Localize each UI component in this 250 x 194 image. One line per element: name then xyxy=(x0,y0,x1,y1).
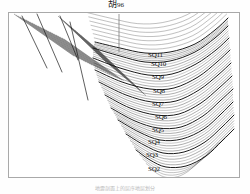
sequence-boundary-sq7 xyxy=(99,63,231,103)
well-name-number: 96 xyxy=(117,1,124,9)
sequence-label-sq6: SQ6 xyxy=(155,114,167,121)
well-name-label: 胡96 xyxy=(108,0,124,9)
figure-caption: 地震剖面上的层序地层划分 xyxy=(0,184,250,191)
well-name-character: 胡 xyxy=(108,0,117,9)
sequence-label-sq5: SQ5 xyxy=(152,127,164,134)
fault-1-line xyxy=(22,16,47,68)
sequence-label-sq4: SQ4 xyxy=(148,139,160,146)
sequence-label-sq2: SQ2 xyxy=(148,166,160,173)
sequence-boundary-sq3 xyxy=(126,115,234,154)
sequence-label-sq3: SQ3 xyxy=(146,152,158,159)
geological-cross-section-figure: 胡96 SQ11 SQ10 SQ9 SQ8 SQ7 SQ6 SQ5 SQ4 SQ… xyxy=(0,0,250,194)
sequence-label-sq11: SQ11 xyxy=(148,52,163,59)
sequence-label-sq9: SQ9 xyxy=(152,74,164,81)
sequence-label-sq7: SQ7 xyxy=(152,101,164,108)
fault-4-line xyxy=(60,16,78,60)
section-drawing xyxy=(0,0,250,194)
cross-section-svg xyxy=(0,0,250,194)
sequence-label-sq8: SQ8 xyxy=(153,88,165,95)
fault-trace-group xyxy=(22,14,88,100)
sequence-label-sq10: SQ10 xyxy=(151,61,166,68)
